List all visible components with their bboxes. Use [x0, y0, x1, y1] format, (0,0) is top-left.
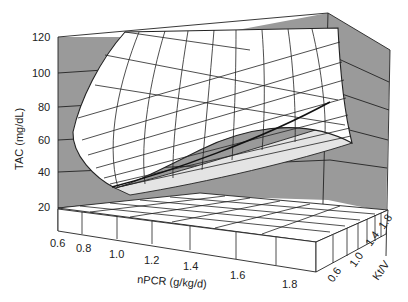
x-tick: 1.6: [230, 269, 245, 281]
x-axis-label: nPCR (g/kg/d): [137, 273, 207, 290]
z-axis-label: TAC (mg/dL): [13, 108, 25, 170]
y-tick: 0.6: [325, 265, 344, 284]
y-axis-label: Kt/V: [370, 258, 392, 282]
z-tick: 20: [38, 201, 50, 213]
z-tick: 60: [38, 134, 50, 146]
x-tick: 1.2: [144, 254, 159, 266]
x-tick: 1.8: [282, 278, 297, 290]
x-tick: 1.0: [109, 248, 124, 260]
z-tick: 100: [32, 67, 50, 79]
x-tick: 0.8: [76, 242, 91, 254]
x-tick: 1.4: [183, 260, 198, 272]
z-tick: 120: [32, 31, 50, 43]
z-tick: 80: [38, 101, 50, 113]
surface-plot: 120 100 80 60 40 20 TAC (mg/dL) 0.6 0.8 …: [0, 0, 408, 302]
z-tick: 40: [38, 166, 50, 178]
x-tick: 0.6: [50, 237, 65, 249]
